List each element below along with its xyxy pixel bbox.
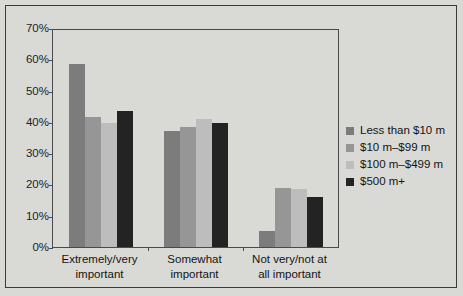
chart-screenshot: 70%60%50%40%30%20%10%0% Extremely/very i…: [0, 0, 463, 296]
legend-item: Less than $10 m: [346, 122, 463, 139]
bar: [196, 119, 212, 247]
legend-item: $500 m+: [346, 173, 463, 190]
bar: [164, 131, 180, 247]
bar: [259, 231, 275, 247]
y-axis-tick-marks: [6, 29, 53, 248]
x-axis-tick-mark: [148, 247, 149, 251]
legend-swatch-icon: [346, 144, 354, 152]
bar: [291, 189, 307, 247]
legend-label: $500 m+: [360, 176, 405, 188]
bar: [69, 64, 85, 247]
x-axis-category-label: Somewhat important: [147, 252, 242, 282]
legend-swatch-icon: [346, 127, 354, 135]
x-axis-category-label: Extremely/very important: [52, 252, 147, 282]
figure-frame: 70%60%50%40%30%20%10%0% Extremely/very i…: [5, 5, 457, 288]
x-axis-tick-mark: [243, 247, 244, 251]
x-axis-labels: Extremely/very importantSomewhat importa…: [52, 252, 339, 294]
legend-label: $100 m–$499 m: [360, 159, 443, 171]
legend-label: Less than $10 m: [360, 125, 445, 137]
bar-group: [164, 30, 228, 247]
bar-group: [69, 30, 133, 247]
bar: [180, 127, 196, 247]
bar-group: [259, 30, 323, 247]
bar: [275, 188, 291, 247]
bar: [85, 117, 101, 247]
legend-swatch-icon: [346, 161, 354, 169]
y-axis-tick-mark: [49, 248, 53, 249]
legend-item: $100 m–$499 m: [346, 156, 463, 173]
bars-container: [53, 30, 338, 247]
x-axis-category-label: Not very/not at all important: [242, 252, 337, 282]
legend: Less than $10 m$10 m–$99 m$100 m–$499 m$…: [346, 122, 463, 190]
bar: [101, 123, 117, 247]
bar: [307, 197, 323, 247]
bar: [117, 111, 133, 247]
legend-swatch-icon: [346, 178, 354, 186]
plot-area: [52, 29, 339, 248]
bar: [212, 123, 228, 247]
legend-item: $10 m–$99 m: [346, 139, 463, 156]
legend-label: $10 m–$99 m: [360, 142, 430, 154]
